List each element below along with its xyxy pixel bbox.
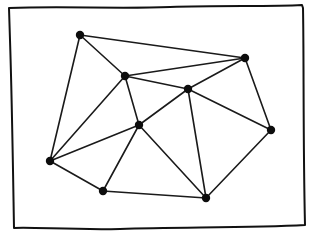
node-H xyxy=(99,187,107,195)
node-G xyxy=(46,157,54,165)
node-A xyxy=(76,31,84,39)
node-F xyxy=(135,121,143,129)
edge-C-D xyxy=(125,76,188,89)
node-E xyxy=(267,126,275,134)
edge-C-G xyxy=(50,76,125,161)
edge-A-B xyxy=(80,35,245,58)
edge-D-F xyxy=(139,89,188,125)
edge-H-I xyxy=(103,191,206,198)
edge-C-F xyxy=(125,76,139,125)
edge-F-G xyxy=(50,125,139,161)
node-layer xyxy=(46,31,275,202)
node-D xyxy=(184,85,192,93)
edge-layer xyxy=(50,35,271,198)
edge-A-C xyxy=(80,35,125,76)
node-I xyxy=(202,194,210,202)
edge-F-H xyxy=(103,125,139,191)
graph-diagram xyxy=(0,0,314,236)
node-C xyxy=(121,72,129,80)
edge-I-E xyxy=(206,130,271,198)
edge-G-H xyxy=(50,161,103,191)
node-B xyxy=(241,54,249,62)
hand-drawn-frame xyxy=(9,5,305,229)
edge-A-G xyxy=(50,35,80,161)
